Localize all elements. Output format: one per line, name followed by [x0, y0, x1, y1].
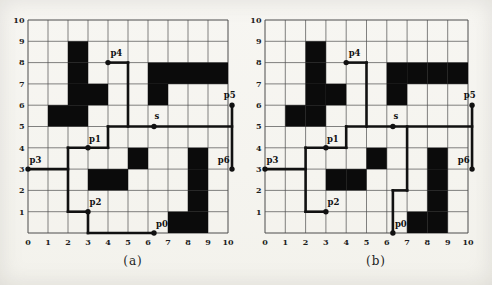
waypoint-dot-p0: [390, 230, 395, 235]
grid-path-figure: p3p1p2p0p4sp5p601234567891012345678910p3…: [0, 0, 492, 285]
x-tick-label: 2: [65, 237, 71, 247]
obstacle-cell: [427, 190, 447, 211]
y-tick-label: 2: [19, 185, 25, 195]
waypoint-dot-p0: [151, 230, 156, 235]
obstacle-cell: [208, 63, 228, 84]
obstacle-cell: [68, 84, 88, 105]
x-tick-label: 8: [185, 237, 191, 247]
waypoint-label-p1: p1: [327, 134, 339, 144]
obstacle-cell: [448, 63, 468, 84]
obstacle-cell: [108, 169, 128, 190]
x-tick-label: 6: [145, 237, 151, 247]
y-tick-label: 5: [256, 121, 262, 131]
obstacle-cell: [326, 84, 346, 105]
waypoint-dot-p6: [469, 166, 474, 171]
y-tick-label: 10: [13, 15, 25, 25]
obstacle-cell: [68, 41, 88, 62]
obstacle-cell: [188, 212, 208, 233]
obstacle-cell: [128, 148, 148, 169]
x-tick-label: 1: [283, 237, 289, 247]
waypoint-label-p0: p0: [156, 219, 168, 229]
waypoint-label-s: s: [155, 111, 160, 121]
y-tick-label: 4: [19, 143, 25, 153]
waypoint-label-p2: p2: [328, 197, 340, 207]
waypoint-dot-p1: [323, 145, 328, 150]
x-tick-label: 8: [425, 237, 431, 247]
y-tick-label: 7: [19, 79, 25, 89]
obstacle-cell: [306, 63, 326, 84]
waypoint-label-p4: p4: [349, 48, 361, 58]
obstacle-cell: [188, 190, 208, 211]
waypoint-dot-p4: [105, 60, 110, 65]
x-tick-label: 9: [445, 237, 451, 247]
obstacle-cell: [88, 84, 108, 105]
obstacle-cell: [306, 105, 326, 126]
waypoint-label-p3: p3: [267, 155, 279, 165]
obstacle-cell: [188, 148, 208, 169]
waypoint-dot-p4: [344, 60, 349, 65]
obstacle-cell: [188, 169, 208, 190]
x-tick-label: 4: [105, 237, 111, 247]
obstacle-cell: [387, 84, 407, 105]
obstacle-cell: [188, 63, 208, 84]
x-tick-label: 9: [205, 237, 211, 247]
obstacle-cell: [326, 169, 346, 190]
waypoint-label-p0: p0: [395, 219, 407, 229]
waypoint-label-p2: p2: [90, 197, 102, 207]
x-tick-label: 1: [45, 237, 51, 247]
caption-subplot-b: (b): [346, 254, 406, 268]
y-tick-label: 1: [19, 207, 25, 217]
y-tick-label: 4: [256, 143, 262, 153]
y-tick-label: 6: [19, 100, 25, 110]
waypoint-dot-p2: [323, 209, 328, 214]
x-tick-label: 6: [384, 237, 390, 247]
subplot-a: p3p1p2p0p4sp5p601234567891012345678910: [13, 15, 235, 247]
waypoint-label-p5: p5: [464, 90, 476, 100]
y-tick-label: 8: [19, 57, 25, 67]
x-tick-label: 3: [323, 237, 329, 247]
waypoint-label-p6: p6: [218, 155, 230, 165]
waypoint-label-p3: p3: [30, 155, 42, 165]
obstacle-cell: [346, 169, 366, 190]
waypoint-dot-p2: [85, 209, 90, 214]
waypoint-dot-p1: [85, 145, 90, 150]
obstacle-cell: [387, 63, 407, 84]
waypoint-dot-p3: [25, 166, 30, 171]
waypoint-label-p5: p5: [224, 90, 236, 100]
waypoint-dot-p5: [229, 103, 234, 108]
obstacle-cell: [306, 41, 326, 62]
caption-subplot-a: (a): [103, 254, 163, 268]
obstacle-cell: [407, 212, 427, 233]
waypoint-dot-s: [390, 124, 395, 129]
waypoint-dot-s: [151, 124, 156, 129]
obstacle-cell: [427, 63, 447, 84]
x-tick-label: 5: [125, 237, 131, 247]
x-tick-label: 10: [222, 237, 234, 247]
waypoint-label-s: s: [393, 111, 398, 121]
obstacle-cell: [285, 105, 305, 126]
obstacle-cell: [68, 105, 88, 126]
subplot-b: p3p1p2p0p4sp5p601234567891012345678910: [250, 15, 475, 247]
waypoint-dot-p5: [469, 103, 474, 108]
obstacle-cell: [168, 63, 188, 84]
waypoint-label-p6: p6: [458, 155, 470, 165]
obstacle-cell: [427, 169, 447, 190]
x-tick-label: 10: [462, 237, 474, 247]
y-tick-label: 8: [256, 57, 262, 67]
waypoint-dot-p3: [262, 166, 267, 171]
y-tick-label: 3: [19, 164, 25, 174]
obstacle-cell: [48, 105, 68, 126]
x-tick-label: 0: [262, 237, 268, 247]
y-tick-label: 9: [19, 36, 25, 46]
scanned-figure-page: p3p1p2p0p4sp5p601234567891012345678910p3…: [0, 0, 492, 285]
y-tick-label: 3: [256, 164, 262, 174]
obstacle-cell: [427, 212, 447, 233]
x-tick-label: 5: [364, 237, 370, 247]
obstacle-cell: [148, 84, 168, 105]
obstacle-cell: [427, 148, 447, 169]
x-tick-label: 4: [343, 237, 349, 247]
y-tick-label: 5: [19, 121, 25, 131]
y-tick-label: 7: [256, 79, 262, 89]
x-tick-label: 0: [25, 237, 31, 247]
waypoint-label-p4: p4: [110, 48, 122, 58]
